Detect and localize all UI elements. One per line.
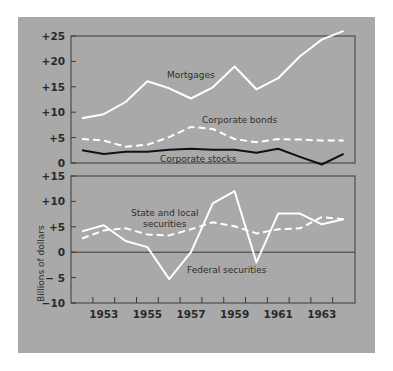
label-corporate-bonds: Corporate bonds (202, 115, 277, 125)
x-tick-label: 1959 (220, 308, 249, 320)
y-axis-title: Billions of dollars (36, 225, 46, 302)
label-mortgages: Mortgages (167, 70, 215, 80)
y-tick-label: +25 (42, 30, 65, 42)
x-tick-label: 1953 (89, 308, 118, 320)
y-tick-label: +10 (42, 195, 65, 207)
label-state-local-line2: securities (143, 219, 187, 229)
y-tick-label: +15 (42, 170, 65, 182)
y-tick-label: 0 (58, 246, 65, 258)
y-tick-label: +15 (42, 81, 65, 93)
label-corporate-stocks: Corporate stocks (160, 154, 237, 164)
x-axis: 195319551957195919611963 (89, 297, 336, 320)
bottom-plot-frame (71, 176, 355, 303)
top-plot-frame (71, 36, 355, 163)
y-tick-label: +5 (49, 221, 65, 233)
y-tick-label: 0 (58, 157, 65, 169)
y-tick-label: +5 (49, 132, 65, 144)
chart-svg: 0+5+10+15+20+25 −10− 50+5+10+15 19531955… (0, 0, 393, 371)
y-tick-label: +10 (42, 106, 65, 118)
label-state-local-line1: State and local (131, 208, 198, 218)
x-tick-label: 1957 (176, 308, 205, 320)
series-corporate-bonds (82, 127, 344, 147)
x-tick-label: 1961 (264, 308, 293, 320)
y-tick-label: − 5 (45, 272, 65, 284)
x-tick-label: 1963 (307, 308, 336, 320)
x-tick-label: 1955 (133, 308, 162, 320)
label-federal-securities: Federal securities (187, 265, 267, 275)
y-tick-label: +20 (42, 55, 65, 67)
series-state-and-local-securities (82, 217, 344, 238)
top-series-lines (82, 31, 344, 165)
